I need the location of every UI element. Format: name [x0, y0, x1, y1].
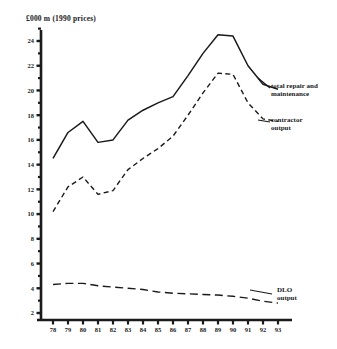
- annotation-contractor-line2: output: [271, 124, 302, 132]
- annotation-contractor-line1: contractor: [271, 116, 302, 124]
- svg-text:12: 12: [28, 186, 35, 193]
- svg-text:92: 92: [260, 326, 267, 333]
- svg-text:84: 84: [140, 326, 147, 333]
- svg-text:81: 81: [95, 326, 102, 333]
- svg-text:88: 88: [200, 326, 207, 333]
- svg-text:22: 22: [28, 62, 35, 69]
- svg-text:82: 82: [110, 326, 117, 333]
- annotation-total-line2: maintenance: [271, 90, 318, 98]
- svg-text:14: 14: [28, 161, 35, 168]
- annotation-dlo-output: DLO output: [277, 286, 297, 302]
- svg-text:86: 86: [170, 326, 177, 333]
- annotation-total-line1: total repair and: [271, 82, 318, 90]
- chart-container: £000 m (1990 prices) 2468101214161820222…: [0, 0, 337, 349]
- series-line: [53, 283, 278, 303]
- annotation-dlo-line1: DLO: [277, 286, 297, 294]
- svg-text:79: 79: [65, 326, 72, 333]
- chart-x-tick-labels: 78798081828384858687888990919293: [50, 326, 282, 333]
- annotation-leader-line: [258, 120, 270, 122]
- svg-text:2: 2: [31, 309, 34, 316]
- svg-text:6: 6: [31, 260, 35, 267]
- svg-text:90: 90: [230, 326, 237, 333]
- chart-annotation-leaders: [250, 78, 272, 294]
- annotation-leader-line: [250, 290, 272, 294]
- series-line: [53, 35, 278, 159]
- svg-text:80: 80: [80, 326, 87, 333]
- svg-text:18: 18: [28, 112, 35, 119]
- svg-text:85: 85: [155, 326, 162, 333]
- svg-text:89: 89: [215, 326, 222, 333]
- series-line: [53, 73, 278, 211]
- chart-series-lines: [53, 35, 278, 303]
- svg-text:91: 91: [245, 326, 252, 333]
- svg-text:93: 93: [275, 326, 282, 333]
- svg-text:20: 20: [28, 87, 35, 94]
- svg-text:8: 8: [31, 235, 35, 242]
- chart-y-tick-labels: 24681012141618202224: [28, 37, 35, 316]
- svg-text:16: 16: [28, 136, 35, 143]
- svg-text:10: 10: [28, 210, 35, 217]
- annotation-leader-line: [258, 78, 270, 88]
- svg-text:87: 87: [185, 326, 192, 333]
- svg-text:83: 83: [125, 326, 132, 333]
- annotation-contractor-output: contractor output: [271, 116, 302, 132]
- annotation-dlo-line2: output: [277, 294, 297, 302]
- svg-text:4: 4: [31, 285, 35, 292]
- svg-text:78: 78: [50, 326, 57, 333]
- svg-text:24: 24: [28, 37, 35, 44]
- annotation-total-repair-and-maintenance: total repair and maintenance: [271, 82, 318, 98]
